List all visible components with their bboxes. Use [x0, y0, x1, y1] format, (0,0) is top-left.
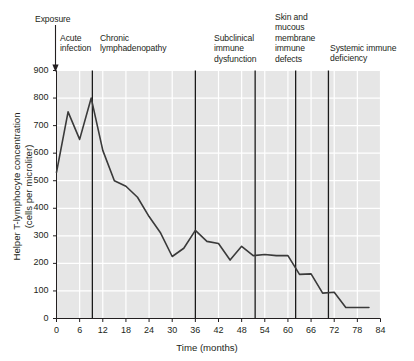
- x-tick-label: 24: [137, 325, 161, 335]
- x-tick-label: 78: [345, 325, 369, 335]
- x-tick-label: 30: [160, 325, 184, 335]
- plot-area: [0, 0, 414, 361]
- x-tick-label: 0: [45, 325, 69, 335]
- x-tick-label: 54: [253, 325, 277, 335]
- y-axis-title: Helper T-lymphocyte concentration (cells…: [11, 77, 34, 297]
- y-tick-label: 900: [19, 65, 49, 75]
- x-tick-label: 60: [276, 325, 300, 335]
- x-tick-label: 6: [68, 325, 92, 335]
- x-axis-title: Time (months): [0, 342, 414, 353]
- x-tick-label: 48: [230, 325, 254, 335]
- x-tick-label: 12: [91, 325, 115, 335]
- x-tick-label: 36: [183, 325, 207, 335]
- x-tick-label: 72: [322, 325, 346, 335]
- x-tick-label: 42: [207, 325, 231, 335]
- chart-figure: Exposure Acute infection Chronic lymphad…: [0, 0, 414, 361]
- y-tick-label: 0: [19, 313, 49, 323]
- x-tick-label: 18: [114, 325, 138, 335]
- x-tick-label: 66: [299, 325, 323, 335]
- x-tick-label: 84: [369, 325, 393, 335]
